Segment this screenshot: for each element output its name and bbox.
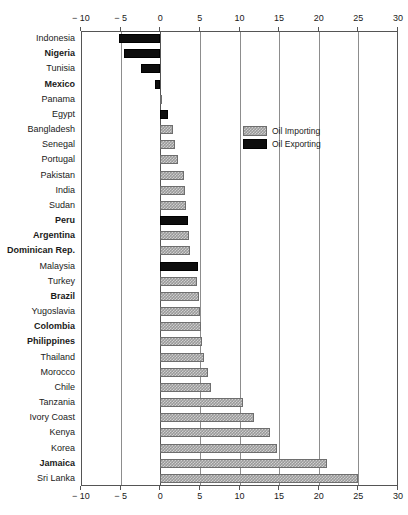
bar-importing [160,171,184,180]
bar-row: Thailand [0,350,408,365]
bar-row: Sudan [0,198,408,213]
category-label: India [0,186,75,195]
category-label: Pakistan [0,171,75,180]
category-label: Ivory Coast [0,413,75,422]
bar-importing [160,322,200,331]
x-axis-bottom-labels: − 10− 5051015202530 [81,491,398,505]
bar-importing [160,413,254,422]
category-label: Sudan [0,201,75,210]
legend-swatch-exporting [243,139,267,149]
x-tick-label-25: 25 [353,13,363,23]
x-tick-label--5: − 5 [114,491,127,501]
category-label: Dominican Rep. [0,246,75,255]
category-label: Brazil [0,292,75,301]
category-label: Chile [0,383,75,392]
bar-row: Colombia [0,319,408,334]
bar-row: Ivory Coast [0,410,408,425]
bar-row: Mexico [0,77,408,92]
x-tickmark-20 [318,486,319,490]
bar-importing [160,140,174,149]
bar-importing [160,231,189,240]
x-tick-label-5: 5 [197,491,202,501]
bar-row: Nigeria [0,46,408,61]
x-axis-top-labels: − 10− 5051015202530 [81,13,398,27]
bar-importing [160,186,185,195]
category-label: Peru [0,216,75,225]
category-label: Morocco [0,368,75,377]
x-tick-label-5: 5 [197,13,202,23]
bar-row: Senegal [0,137,408,152]
bar-row: Philippines [0,334,408,349]
bar-row: Korea [0,441,408,456]
bar-exporting [160,110,168,119]
category-label: Philippines [0,337,75,346]
bar-row: Morocco [0,365,408,380]
bar-exporting [160,216,188,225]
category-label: Senegal [0,140,75,149]
bar-row: Argentina [0,228,408,243]
bar-row: Tunisia [0,61,408,76]
x-tick-label-15: 15 [274,491,284,501]
bar-importing [160,155,178,164]
category-label: Malaysia [0,262,75,271]
x-tickmark-5 [199,486,200,490]
category-label: Thailand [0,353,75,362]
bar-exporting [160,262,198,271]
category-label: Turkey [0,277,75,286]
bar-chart: − 10− 5051015202530 IndonesiaNigeriaTuni… [0,0,408,515]
x-tickmark-0 [159,486,160,490]
bar-importing [160,459,326,468]
bar-importing [160,368,208,377]
category-label: Kenya [0,428,75,437]
bar-row: Bangladesh [0,122,408,137]
bar-rows: IndonesiaNigeriaTunisiaMexicoPanamaEgypt… [0,31,408,486]
bar-importing [160,95,162,104]
x-tickmark-30 [397,486,398,490]
category-label: Indonesia [0,34,75,43]
bar-importing [160,307,200,316]
bar-row: Dominican Rep. [0,243,408,258]
bar-importing [160,125,173,134]
legend-label-exporting: Oil Exporting [272,139,321,149]
bar-row: Chile [0,380,408,395]
x-tick-label-0: 0 [158,13,163,23]
bar-exporting [155,80,160,89]
legend-item-importing: Oil Importing [243,125,321,136]
bar-importing [160,246,190,255]
bar-importing [160,383,211,392]
bar-row: Pakistan [0,168,408,183]
legend-item-exporting: Oil Exporting [243,138,321,149]
bar-importing [160,444,276,453]
category-label: Tanzania [0,398,75,407]
chart-legend: Oil ImportingOil Exporting [243,125,321,151]
bar-row: Indonesia [0,31,408,46]
category-label: Yugoslavia [0,307,75,316]
x-tick-label--10: − 10 [72,491,90,501]
legend-label-importing: Oil Importing [272,126,320,136]
bar-row: Panama [0,92,408,107]
bar-importing [160,292,199,301]
bar-row: Yugoslavia [0,304,408,319]
category-label: Egypt [0,110,75,119]
x-tick-label-30: 30 [393,13,403,23]
x-tick-label-30: 30 [393,491,403,501]
x-tick-label-25: 25 [353,491,363,501]
bar-importing [160,353,204,362]
category-label: Sri Lanka [0,474,75,483]
bar-row: India [0,183,408,198]
bar-row: Brazil [0,289,408,304]
category-label: Nigeria [0,49,75,58]
legend-swatch-importing [243,126,267,136]
x-tickmark-25 [357,486,358,490]
x-tick-label-15: 15 [274,13,284,23]
category-label: Bangladesh [0,125,75,134]
x-tickmark--5 [120,486,121,490]
x-tick-label-10: 10 [234,13,244,23]
bar-row: Peru [0,213,408,228]
x-tick-label-20: 20 [314,13,324,23]
x-tick-label-10: 10 [234,491,244,501]
category-label: Korea [0,444,75,453]
x-tickmark--10 [80,486,81,490]
bar-exporting [141,64,160,73]
x-tick-label-0: 0 [158,491,163,501]
